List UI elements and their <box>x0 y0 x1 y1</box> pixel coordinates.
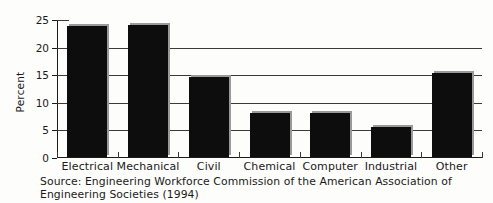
x-tick-mark <box>178 152 179 158</box>
x-tick-mark <box>118 152 119 158</box>
y-tick-label: 0 <box>23 152 49 164</box>
gridline <box>57 103 482 104</box>
source-line-2: Engineering Societies (1994) <box>40 189 470 202</box>
x-tick-mark <box>421 152 422 158</box>
y-tick-mark <box>52 158 57 159</box>
y-tick-label: 20 <box>23 42 49 54</box>
y-tick-label: 10 <box>23 97 49 109</box>
x-tick-mark <box>482 152 483 158</box>
x-axis-label-mechanical: Mechanical <box>117 160 180 173</box>
y-tick-mark <box>52 130 57 131</box>
y-tick-label: 25 <box>23 14 49 26</box>
x-axis-label-civil: Civil <box>197 160 221 173</box>
x-axis-label-computer: Computer <box>302 160 357 173</box>
y-tick-mark <box>52 103 57 104</box>
bar-civil <box>189 77 229 157</box>
gridline <box>57 20 69 21</box>
y-tick-mark <box>52 75 57 76</box>
bar-mechanical <box>128 25 168 157</box>
x-axis-label-industrial: Industrial <box>365 160 418 173</box>
y-tick-label: 15 <box>23 69 49 81</box>
plot-area: 0510152025 <box>57 20 482 158</box>
bar-electrical <box>67 26 107 157</box>
bar-computer <box>310 113 350 157</box>
gridline <box>57 48 482 49</box>
x-axis-label-chemical: Chemical <box>244 160 296 173</box>
x-axis-label-other: Other <box>436 160 468 173</box>
x-axis-labels-group: ElectricalMechanicalCivilChemicalCompute… <box>57 160 482 176</box>
y-tick-mark <box>52 20 57 21</box>
x-tick-mark <box>361 152 362 158</box>
source-line-1: Source: Engineering Workforce Commission… <box>40 176 470 189</box>
source-note: Source: Engineering Workforce Commission… <box>40 176 470 201</box>
y-axis-line <box>57 20 58 158</box>
bar-chemical <box>250 113 290 157</box>
x-tick-mark <box>57 152 58 158</box>
gridline <box>57 75 482 76</box>
bar-other <box>432 73 472 157</box>
y-tick-label: 5 <box>23 124 49 136</box>
bar-chart-figure: Percent 0510152025 ElectricalMechanicalC… <box>0 0 493 203</box>
x-tick-mark <box>239 152 240 158</box>
x-tick-mark <box>300 152 301 158</box>
x-axis-label-electrical: Electrical <box>62 160 114 173</box>
y-tick-mark <box>52 48 57 49</box>
y-axis-title-text: Percent <box>14 52 26 132</box>
x-axis-line <box>57 157 482 158</box>
bar-industrial <box>371 127 411 157</box>
